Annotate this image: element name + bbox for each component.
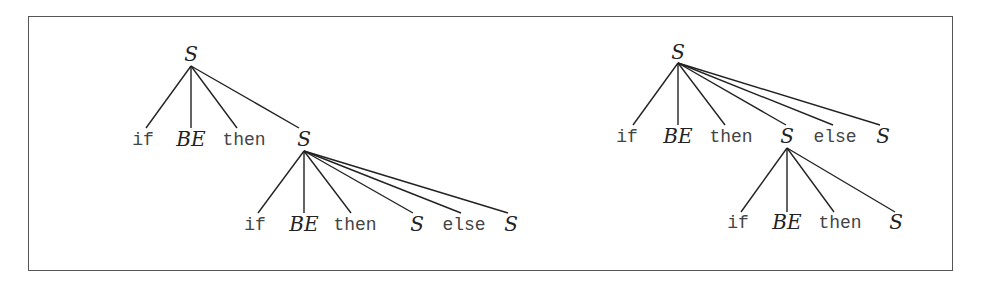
- tree-edge: [191, 66, 237, 128]
- terminal-node: else: [813, 128, 856, 146]
- tree-edge: [787, 148, 895, 212]
- tree-edge: [191, 66, 299, 128]
- tree-edge: [678, 63, 880, 125]
- nonterminal-node: BE: [772, 212, 801, 232]
- nonterminal-node: S: [297, 129, 311, 149]
- nonterminal-node: S: [780, 126, 794, 146]
- terminal-node: if: [132, 131, 154, 149]
- tree-edge: [258, 151, 304, 213]
- tree-edge: [146, 66, 191, 128]
- terminal-node: then: [222, 131, 265, 149]
- tree-edge: [304, 151, 413, 213]
- tree-edge: [741, 148, 787, 212]
- terminal-node: if: [244, 216, 266, 234]
- tree-edge: [678, 63, 786, 125]
- tree-edge: [304, 151, 508, 213]
- tree-edge: [633, 63, 678, 125]
- terminal-node: then: [333, 216, 376, 234]
- terminal-node: then: [818, 214, 861, 232]
- nonterminal-node: S: [504, 214, 518, 234]
- nonterminal-node: S: [889, 212, 903, 232]
- nonterminal-node: S: [410, 214, 424, 234]
- nonterminal-node: BE: [176, 129, 205, 149]
- nonterminal-node: BE: [289, 214, 318, 234]
- nonterminal-node: BE: [663, 126, 692, 146]
- nonterminal-node: S: [184, 44, 198, 64]
- nonterminal-node: S: [671, 42, 685, 62]
- nonterminal-node: S: [876, 126, 890, 146]
- terminal-node: then: [709, 128, 752, 146]
- terminal-node: else: [442, 216, 485, 234]
- terminal-node: if: [616, 128, 638, 146]
- tree-edge: [787, 148, 834, 212]
- terminal-node: if: [727, 214, 749, 232]
